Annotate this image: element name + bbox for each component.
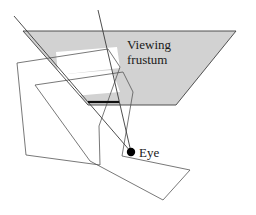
eye-label: Eye: [139, 145, 159, 160]
frustum-label-line1: Viewing: [127, 37, 171, 52]
viewing-frustum-diagram: Viewing frustum Eye: [0, 0, 256, 215]
eye-point-dot: [127, 148, 135, 156]
frustum-label-line2: frustum: [127, 52, 167, 67]
figure-canvas: Viewing frustum Eye: [0, 0, 256, 215]
